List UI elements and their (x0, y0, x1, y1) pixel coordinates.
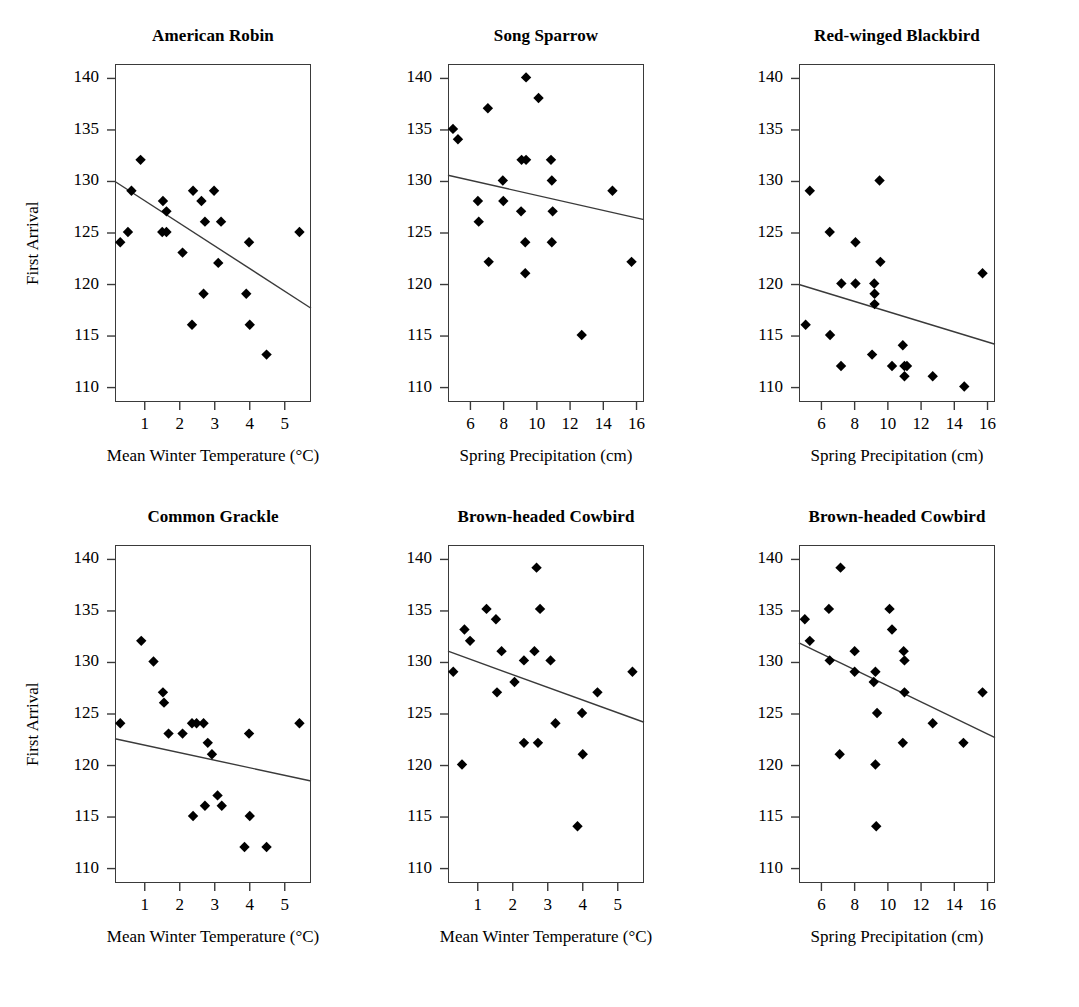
x-tick-label: 16 (963, 895, 1013, 915)
data-point-marker (870, 667, 880, 677)
x-axis-title: Spring Precipitation (cm) (689, 927, 1079, 947)
data-point-marker (887, 624, 897, 634)
data-point-marker (834, 749, 844, 759)
data-point-marker (805, 636, 815, 646)
y-tick-label: 130 (721, 651, 783, 671)
data-point-marker (977, 687, 987, 697)
y-tick-label: 135 (721, 600, 783, 620)
data-point-marker (899, 655, 909, 665)
data-point-marker (928, 718, 938, 728)
data-point-marker (824, 604, 834, 614)
data-point-marker (835, 562, 845, 572)
data-point-marker (871, 821, 881, 831)
data-point-marker (884, 604, 894, 614)
y-tick-label: 115 (721, 806, 783, 826)
data-point-marker (849, 646, 859, 656)
data-point-marker (898, 646, 908, 656)
data-point-marker (872, 708, 882, 718)
data-point-marker (869, 677, 879, 687)
panel-brown-headed-cowbird-6: Brown-headed Cowbird11011512012513013514… (0, 0, 1079, 1007)
data-point-marker (898, 738, 908, 748)
y-tick-label: 125 (721, 703, 783, 723)
data-point-marker (870, 759, 880, 769)
y-tick-label: 110 (721, 858, 783, 878)
data-point-marker (800, 614, 810, 624)
data-point-marker (958, 738, 968, 748)
plot-canvas (0, 0, 1079, 1007)
y-tick-label: 120 (721, 755, 783, 775)
figure-panel-grid: American Robin11011512012513013514012345… (0, 0, 1079, 1007)
y-tick-label: 140 (721, 548, 783, 568)
